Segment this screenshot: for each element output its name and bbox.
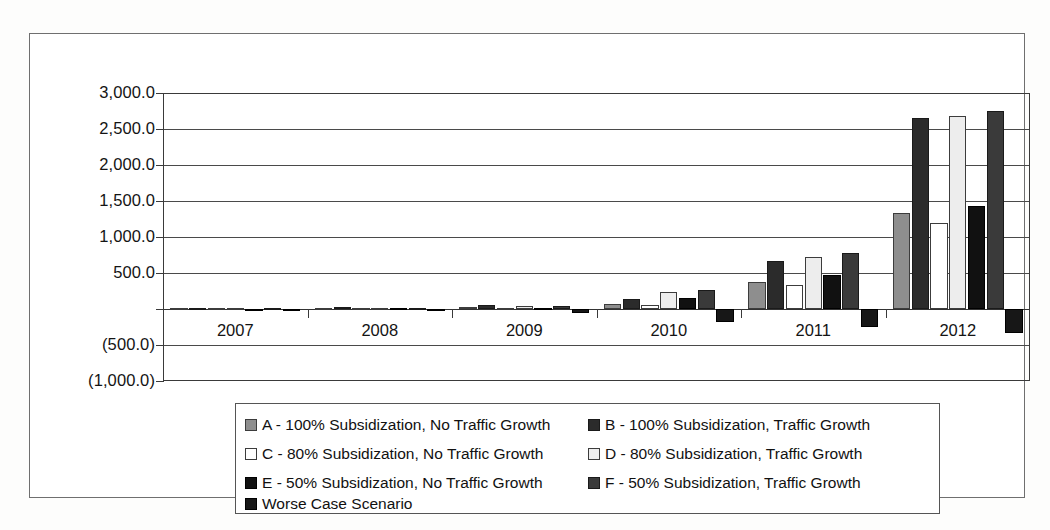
- legend-label-D: D - 80% Subsidization, Traffic Growth: [605, 446, 862, 462]
- legend-item-C[interactable]: C - 80% Subsidization, No Traffic Growth: [245, 440, 543, 467]
- plot-area: 200720082009201020112012: [163, 93, 1030, 381]
- y-tick-mark: [156, 381, 164, 382]
- legend-item-F[interactable]: F - 50% Subsidization, Traffic Growth: [588, 469, 861, 496]
- chart-figure: 3,000.02,500.02,000.01,500.01,000.0500.0…: [0, 0, 1050, 530]
- legend-label-E: E - 50% Subsidization, No Traffic Growth: [262, 475, 543, 491]
- x-axis-tick-label-2007: 2007: [163, 321, 308, 340]
- x-axis-tick-label-2008: 2008: [308, 321, 453, 340]
- x-category-tick: [741, 309, 742, 318]
- legend-label-W: Worse Case Scenario: [262, 496, 412, 512]
- y-axis-tick-label: (500.0): [102, 335, 155, 354]
- x-category-tick: [886, 309, 887, 318]
- legend-label-F: F - 50% Subsidization, Traffic Growth: [605, 475, 861, 491]
- legend-swatch-icon-E: [245, 477, 257, 489]
- legend-item-B[interactable]: B - 100% Subsidization, Traffic Growth: [588, 411, 870, 438]
- y-axis-tick-label: 1,000.0: [99, 227, 155, 246]
- y-axis-tick-label: 1,500.0: [99, 191, 155, 210]
- y-axis-tick-label: 500.0: [113, 263, 155, 282]
- x-axis-tick-label-2012: 2012: [886, 321, 1031, 340]
- legend-swatch-icon-A: [245, 419, 257, 431]
- legend-item-D[interactable]: D - 80% Subsidization, Traffic Growth: [588, 440, 862, 467]
- y-axis-tick-label: 2,500.0: [99, 119, 155, 138]
- x-axis-tick-label-2009: 2009: [452, 321, 597, 340]
- legend-label-A: A - 100% Subsidization, No Traffic Growt…: [262, 417, 550, 433]
- legend-swatch-icon-D: [588, 448, 600, 460]
- figure-frame: 3,000.02,500.02,000.01,500.01,000.0500.0…: [29, 33, 1025, 498]
- x-axis-tick-label-2011: 2011: [741, 321, 886, 340]
- legend-label-C: C - 80% Subsidization, No Traffic Growth: [262, 446, 543, 462]
- y-axis-labels: 3,000.02,500.02,000.01,500.01,000.0500.0…: [30, 93, 155, 381]
- legend-swatch-icon-W: [245, 498, 257, 510]
- x-category-tick: [597, 309, 598, 318]
- x-axis-tick-label-2010: 2010: [597, 321, 742, 340]
- legend-swatch-icon-F: [588, 477, 600, 489]
- y-axis-tick-label: 2,000.0: [99, 155, 155, 174]
- legend-item-W[interactable]: Worse Case Scenario: [245, 490, 412, 517]
- x-category-tick: [308, 309, 309, 318]
- legend-swatch-icon-C: [245, 448, 257, 460]
- chart-legend: A - 100% Subsidization, No Traffic Growt…: [235, 403, 940, 514]
- legend-label-B: B - 100% Subsidization, Traffic Growth: [605, 417, 870, 433]
- y-axis-tick-label: (1,000.0): [88, 371, 155, 390]
- legend-item-A[interactable]: A - 100% Subsidization, No Traffic Growt…: [245, 411, 550, 438]
- legend-swatch-icon-B: [588, 419, 600, 431]
- x-category-tick: [452, 309, 453, 318]
- y-axis-tick-label: 3,000.0: [99, 83, 155, 102]
